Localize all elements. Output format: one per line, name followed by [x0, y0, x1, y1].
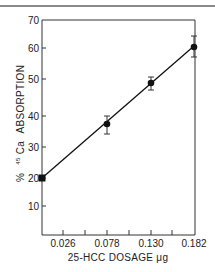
x-tick-label: 0.078	[94, 238, 119, 249]
y-tick-labels: 10 20 30 40 50 60 70	[28, 15, 40, 212]
y-tick-label: 60	[28, 43, 40, 54]
plot-frame	[42, 20, 195, 235]
regression-line	[42, 46, 194, 178]
chart-canvas: 10 20 30 40 50 60 70 0.026 0.078 0.130 0…	[0, 0, 215, 272]
x-axis-title: 25-HCC DOSAGE μg	[68, 252, 169, 263]
y-tick-label: 10	[28, 201, 40, 212]
y-axis-title-element: Ca	[15, 141, 26, 155]
y-axis-title-isotope: 45	[15, 157, 21, 165]
y-tick-label: 70	[28, 15, 40, 26]
x-tick-label: 0.026	[50, 238, 75, 249]
x-tick-label: 0.130	[138, 238, 163, 249]
y-axis-title-prefix: %	[15, 173, 26, 182]
x-tick-label: 0.182	[181, 238, 206, 249]
y-ticks	[42, 48, 46, 206]
data-point-marker	[191, 44, 198, 51]
data-point-marker	[148, 80, 155, 87]
x-tick-labels: 0.026 0.078 0.130 0.182	[50, 238, 206, 249]
y-tick-label: 40	[28, 111, 40, 122]
y-tick-label: 50	[28, 74, 40, 85]
x-ticks	[63, 230, 172, 235]
y-tick-label: 30	[28, 142, 40, 153]
y-axis-title-suffix: ABSORPTION	[15, 65, 26, 134]
data-point-marker	[104, 121, 111, 128]
svg-text:% 45 Ca ABSO: % 45 Ca ABSORPTION	[11, 65, 26, 182]
y-axis-title: % 45 Ca ABSORPTION	[11, 65, 26, 182]
y-tick-label: 20	[28, 173, 40, 184]
data-point-square-marker	[39, 175, 46, 182]
